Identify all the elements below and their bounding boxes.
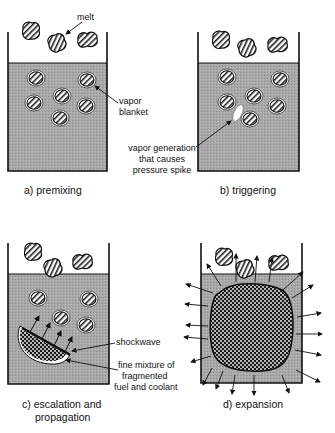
melt-droplet [218, 69, 236, 85]
caption-a: a) premixing [24, 184, 82, 196]
label-shockwave: shockwave [116, 337, 161, 347]
melt-blob [73, 254, 92, 269]
melt-droplet [245, 88, 263, 104]
caption-d: d) expansion [223, 398, 283, 410]
label-vapor-generation-line2: that causes [117, 154, 207, 164]
label-vapor-blanket-line1: vapor [119, 96, 142, 106]
melt-droplet [77, 317, 95, 333]
expanding-mixture-region [210, 284, 293, 371]
label-fine-mixture-line2: fragmented [122, 371, 168, 381]
melt-droplet [53, 88, 71, 104]
label-fine-mixture-line1: fine mixture of [118, 360, 175, 370]
panel-c-escalation [8, 243, 118, 384]
melt-blob [46, 32, 68, 54]
melt-blob [23, 22, 40, 39]
melt-droplet [52, 310, 70, 326]
melt-arrow [66, 22, 82, 34]
melt-blob [236, 37, 258, 59]
label-vapor-generation-line1: vapor generation [117, 143, 207, 153]
caption-c-line2: propagation [35, 411, 90, 423]
melt-droplet [268, 98, 286, 114]
melt-blob [25, 243, 42, 260]
melt-droplet [29, 290, 47, 306]
caption-c-line1: c) escalation and [22, 398, 101, 410]
melt-droplet [80, 291, 98, 307]
label-vapor-generation-line3: pressure spike [117, 165, 207, 175]
melt-blob [78, 32, 97, 47]
caption-b: b) triggering [220, 184, 276, 196]
label-fine-mixture-line3: fuel and coolant [114, 382, 178, 392]
panel-a-premixing [8, 22, 118, 171]
melt-droplet [51, 110, 69, 126]
melt-blob [213, 31, 230, 48]
melt-droplet [241, 111, 259, 127]
melt-droplet [77, 98, 95, 114]
melt-blob [268, 37, 287, 52]
panel-d-expansion [184, 243, 322, 395]
melt-droplet [271, 71, 289, 87]
melt-droplet [25, 95, 43, 111]
label-melt: melt [77, 12, 94, 22]
panel-b-triggering [196, 31, 299, 171]
melt-droplet [78, 72, 96, 88]
melt-blob [216, 248, 233, 265]
melt-droplet [218, 94, 236, 110]
melt-droplet [27, 70, 45, 86]
label-vapor-blanket-line2: blanket [119, 107, 148, 117]
